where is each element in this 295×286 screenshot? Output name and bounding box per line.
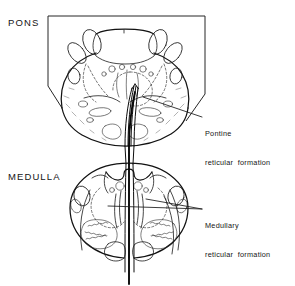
medullary-fiber-bundle [125,164,134,284]
callout-medullary-line1: Medullary [205,221,270,231]
callout-pontine-line2: reticular formation [205,158,270,168]
callout-medullary-line2: reticular formation [205,250,270,260]
section-heading-medulla: MEDULLA [8,171,61,182]
callout-medullary-reticular-formation: Medullary reticular formation [205,202,270,278]
callout-pontine-reticular-formation: Pontine reticular formation [205,110,270,186]
callout-leader-lines [108,97,202,209]
brainstem-reticular-formation-figure: PONS MEDULLA Pontine reticular formation… [0,0,295,286]
callout-pontine-line1: Pontine [205,129,270,139]
section-heading-pons: PONS [8,17,39,28]
descending-reticulospinal-tract [125,146,134,164]
pons-cross-section [61,27,189,146]
